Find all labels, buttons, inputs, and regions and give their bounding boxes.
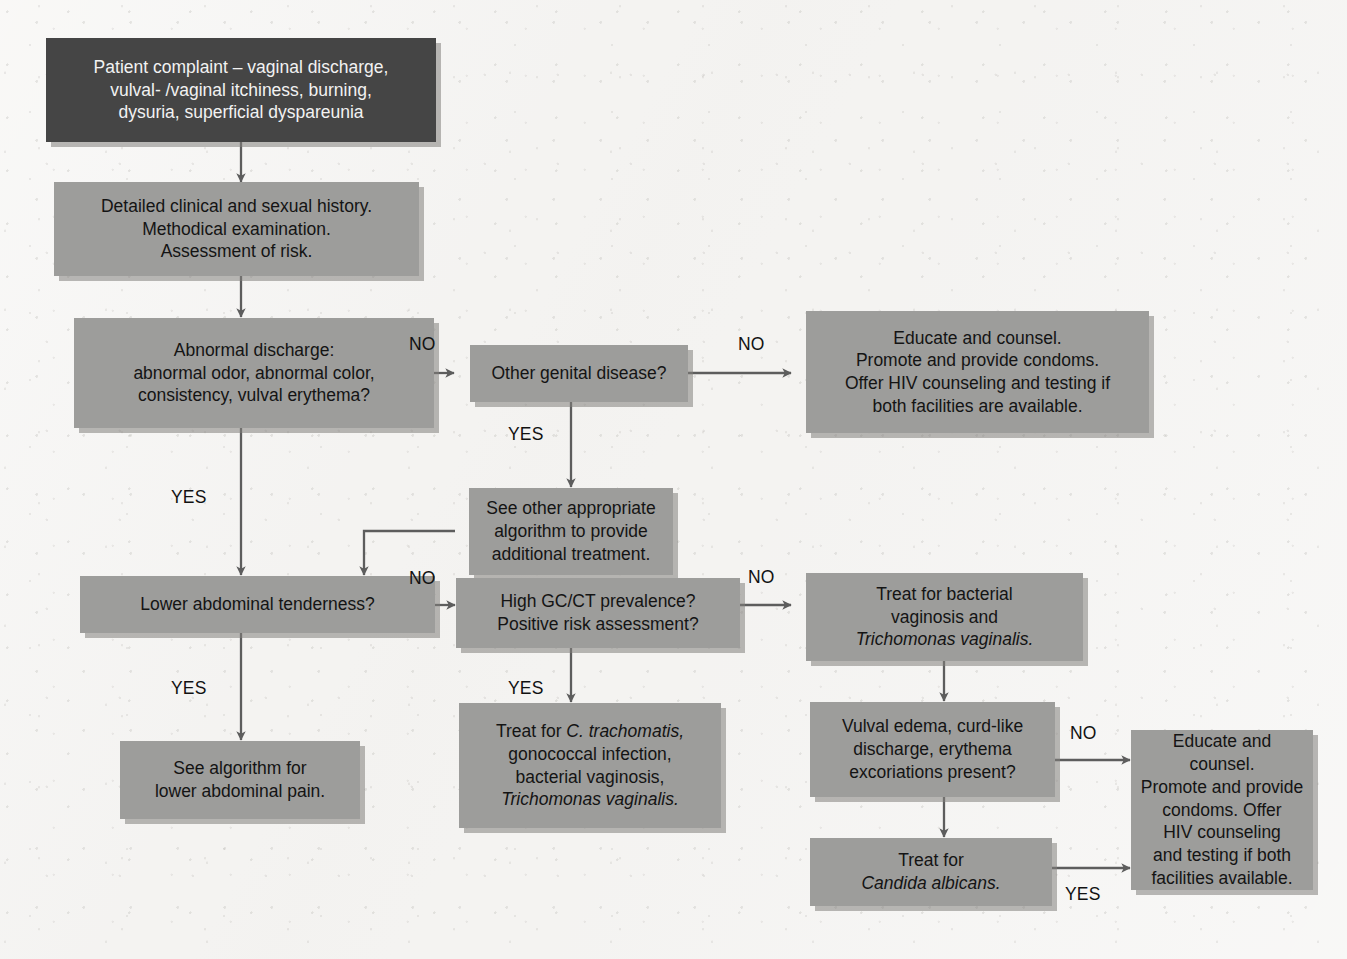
node-educate-counsel-top-label: Educate and counsel.Promote and provide … xyxy=(814,327,1141,418)
edge-label-yes-abnormal-discharge: YES xyxy=(171,487,207,508)
node-lower-abdominal-tenderness-label: Lower abdominal tenderness? xyxy=(88,593,427,616)
node-see-algorithm-lower-abdominal-pain-label: See algorithm forlower abdominal pain. xyxy=(128,757,352,803)
node-educate-counsel-top[interactable]: Educate and counsel.Promote and provide … xyxy=(806,311,1149,433)
node-vulval-edema-label: Vulval edema, curd-likedischarge, erythe… xyxy=(818,715,1047,783)
flowchart-canvas: Patient complaint – vaginal discharge,vu… xyxy=(0,0,1347,959)
node-treat-ct-gc-bv-tv-label: Treat for C. trachomatis,gonococcal infe… xyxy=(467,720,713,811)
node-see-algorithm-lower-abdominal-pain[interactable]: See algorithm forlower abdominal pain. xyxy=(120,741,360,819)
edge-label-yes-treat-candida: YES xyxy=(1065,884,1101,905)
edge-label-no-abnormal-discharge: NO xyxy=(409,334,436,355)
node-high-gc-ct[interactable]: High GC/CT prevalence?Positive risk asse… xyxy=(456,578,740,648)
node-treat-bv-tv-label: Treat for bacterialvaginosis andTrichomo… xyxy=(814,583,1075,651)
node-see-other-algorithm-label: See other appropriatealgorithm to provid… xyxy=(477,497,665,565)
edge-label-yes-lower-abdominal: YES xyxy=(171,678,207,699)
node-vulval-edema[interactable]: Vulval edema, curd-likedischarge, erythe… xyxy=(810,702,1055,797)
node-abnormal-discharge[interactable]: Abnormal discharge:abnormal odor, abnorm… xyxy=(74,318,434,428)
edge-label-no-high-gc-ct: NO xyxy=(748,567,775,588)
edge-label-no-lower-abdominal: NO xyxy=(409,568,436,589)
node-patient-complaint[interactable]: Patient complaint – vaginal discharge,vu… xyxy=(46,38,436,142)
node-lower-abdominal-tenderness[interactable]: Lower abdominal tenderness? xyxy=(80,576,435,633)
node-patient-complaint-label: Patient complaint – vaginal discharge,vu… xyxy=(54,56,428,124)
node-treat-ct-gc-bv-tv[interactable]: Treat for C. trachomatis,gonococcal infe… xyxy=(459,703,721,828)
node-other-genital-disease-label: Other genital disease? xyxy=(478,362,680,385)
node-treat-candida[interactable]: Treat forCandida albicans. xyxy=(810,838,1052,906)
node-other-genital-disease[interactable]: Other genital disease? xyxy=(470,345,688,402)
node-educate-counsel-bottom-label: Educate and counsel.Promote and providec… xyxy=(1139,730,1305,889)
node-abnormal-discharge-label: Abnormal discharge:abnormal odor, abnorm… xyxy=(82,339,426,407)
node-see-other-algorithm[interactable]: See other appropriatealgorithm to provid… xyxy=(469,488,673,575)
node-history-exam-label: Detailed clinical and sexual history.Met… xyxy=(62,195,411,263)
node-educate-counsel-bottom[interactable]: Educate and counsel.Promote and providec… xyxy=(1131,730,1313,890)
edge-label-no-vulval-edema: NO xyxy=(1070,723,1097,744)
edge-label-yes-high-gc-ct: YES xyxy=(508,678,544,699)
node-high-gc-ct-label: High GC/CT prevalence?Positive risk asse… xyxy=(464,590,732,636)
node-history-exam[interactable]: Detailed clinical and sexual history.Met… xyxy=(54,182,419,276)
edge-label-no-other-genital: NO xyxy=(738,334,765,355)
node-treat-bv-tv[interactable]: Treat for bacterialvaginosis andTrichomo… xyxy=(806,573,1083,661)
node-treat-candida-label: Treat forCandida albicans. xyxy=(818,849,1044,895)
edge-label-yes-other-genital: YES xyxy=(508,424,544,445)
